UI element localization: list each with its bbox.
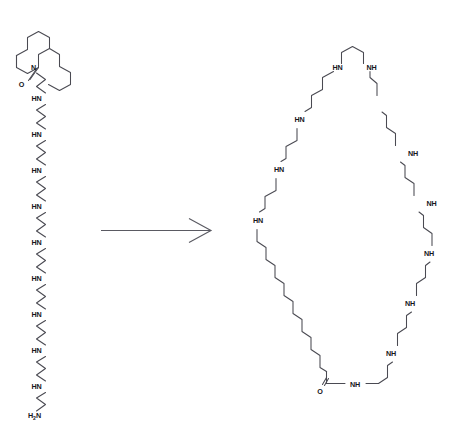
chain-nh-label: HN [31, 94, 41, 103]
macrocycle-nh-label-left: HN [274, 165, 284, 174]
chain-nh-label: HN [31, 130, 41, 139]
chain-nh-label: HN [31, 310, 41, 319]
chain-nh-label: HN [31, 202, 41, 211]
macrocycle-nh-label-right: NH [426, 199, 436, 208]
reactant-chain-nh-labels: HN HN HN HN HN HN HN HN HN [31, 94, 41, 391]
product-macrocycle [257, 47, 432, 386]
chain-nh-label: HN [31, 382, 41, 391]
reaction-arrow [101, 219, 211, 243]
macrocycle-nh-label-left: HN [253, 216, 263, 225]
macrocycle-nh-label-right: NH [424, 249, 434, 258]
macrocycle-nh-label-left: HN [294, 115, 304, 124]
chain-nh-label: HN [31, 238, 41, 247]
macrocycle-nh-label-top-left: HN [332, 63, 342, 72]
chain-nh-label: HN [31, 166, 41, 175]
chain-nh-label: HN [31, 346, 41, 355]
macrocycle-nh-label-lower-right: NH [386, 349, 396, 358]
chain-nh-label: HN [31, 274, 41, 283]
amide-oxygen-label: O [317, 387, 323, 396]
macrocycle-nh-label-right: NH [408, 149, 418, 158]
macrocycle-nh-label-top-right: NH [366, 63, 376, 72]
macrocycle-nh-label-right: NH [405, 299, 415, 308]
lactam-nitrogen-label: N [31, 63, 36, 72]
terminal-amine-n: N [36, 411, 41, 420]
terminal-primary-amine: H 2 N [28, 411, 41, 421]
reaction-scheme: N O HN HN HN HN HN HN HN HN HN [0, 0, 457, 423]
lactam-oxygen-label: O [19, 80, 25, 89]
amide-nitrogen-label: NH [350, 380, 360, 389]
